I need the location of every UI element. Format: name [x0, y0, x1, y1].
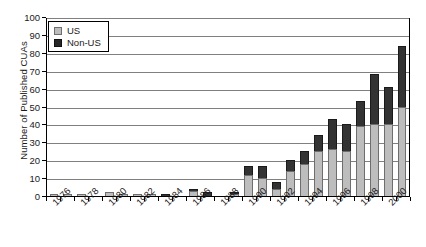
bar-slot-1984	[158, 19, 172, 196]
bar-1996	[328, 119, 337, 196]
bar-segment-non-us-1996	[328, 119, 337, 149]
bar-slot-1982	[131, 19, 145, 196]
bar-segment-non-us-2000	[384, 87, 393, 125]
y-tick-label-70: 70	[10, 67, 40, 76]
legend-item-us: US	[54, 25, 101, 36]
bar-slot-1996	[325, 19, 339, 196]
legend: US Non-US	[48, 21, 109, 52]
bar-segment-us-1996	[328, 149, 337, 196]
y-tick-70	[42, 71, 46, 72]
bar-slot-1993	[284, 19, 298, 196]
bar-segment-non-us-1995	[314, 135, 323, 151]
bar-slot-1990	[242, 19, 256, 196]
bar-slot-1989	[228, 19, 242, 196]
bar-slot-1994	[298, 19, 312, 196]
y-tick-30	[42, 142, 46, 143]
bar-segment-non-us-1992	[272, 182, 281, 189]
legend-swatch-us-icon	[54, 27, 62, 35]
y-tick-label-40: 40	[10, 120, 40, 129]
bar-2000	[384, 87, 393, 196]
bar-1990	[244, 166, 253, 196]
bar-slot-1991	[256, 19, 270, 196]
bar-slot-1988	[214, 19, 228, 196]
y-tick-90	[42, 35, 46, 36]
bar-segment-non-us-1994	[300, 151, 309, 164]
bar-slot-1997	[339, 19, 353, 196]
bar-2001	[398, 46, 407, 196]
y-tick-60	[42, 89, 46, 90]
y-tick-label-90: 90	[10, 31, 40, 40]
bar-slot-1999	[367, 19, 381, 196]
bar-1998	[356, 101, 365, 196]
y-tick-label-100: 100	[10, 13, 40, 22]
bar-segment-us-1994	[300, 164, 309, 196]
bar-segment-non-us-2001	[398, 46, 407, 107]
bar-slot-2000	[381, 19, 395, 196]
bar-slot-2001	[395, 19, 409, 196]
x-tick-26	[410, 197, 411, 201]
bar-segment-non-us-1998	[356, 101, 365, 126]
y-tick-label-0: 0	[10, 192, 40, 201]
bar-slot-1995	[312, 19, 326, 196]
legend-label-us: US	[67, 26, 80, 35]
y-tick-label-80: 80	[10, 49, 40, 58]
bar-segment-non-us-1993	[286, 160, 295, 171]
y-tick-20	[42, 160, 46, 161]
bar-slot-1986	[186, 19, 200, 196]
y-tick-label-30: 30	[10, 138, 40, 147]
bar-slot-1987	[200, 19, 214, 196]
bar-1999	[370, 74, 379, 196]
y-tick-40	[42, 124, 46, 125]
bar-slot-1981	[117, 19, 131, 196]
bar-slot-1998	[353, 19, 367, 196]
legend-label-non-us: Non-US	[67, 38, 101, 47]
chart-figure: Number of Published CUAs 010203040506070…	[0, 0, 426, 247]
y-tick-label-10: 10	[10, 174, 40, 183]
bar-segment-non-us-1997	[342, 124, 351, 151]
bar-slot-1985	[172, 19, 186, 196]
bar-slot-1983	[144, 19, 158, 196]
bar-segment-us-2001	[398, 107, 407, 197]
y-tick-10	[42, 178, 46, 179]
bar-segment-us-2000	[384, 124, 393, 196]
bar-segment-us-1998	[356, 126, 365, 196]
y-tick-label-50: 50	[10, 103, 40, 112]
y-tick-80	[42, 53, 46, 54]
bar-slot-1992	[270, 19, 284, 196]
y-tick-label-60: 60	[10, 85, 40, 94]
bar-segment-non-us-1999	[370, 74, 379, 124]
y-tick-50	[42, 107, 46, 108]
x-axis-labels: 1976197819801982198419861988199019921994…	[46, 200, 410, 246]
legend-item-non-us: Non-US	[54, 37, 101, 48]
y-tick-label-20: 20	[10, 156, 40, 165]
bar-segment-non-us-1990	[244, 166, 253, 175]
y-tick-100	[42, 17, 46, 18]
bar-segment-non-us-1991	[258, 166, 267, 179]
bar-1994	[300, 151, 309, 196]
legend-swatch-non-us-icon	[54, 39, 62, 47]
